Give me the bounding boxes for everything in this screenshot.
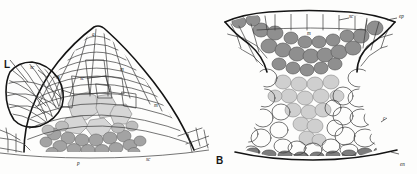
panel-a-drawing: L sc a m sc m m p sc	[0, 0, 209, 174]
panel-b-drawing: sc ep m c en B	[209, 0, 417, 174]
panel-a-label-sc-1: sc	[30, 64, 35, 70]
panel-b-letter: B	[216, 155, 223, 166]
panel-a-label-m-2: m	[120, 66, 124, 72]
panel-a-label-sc-3: sc	[146, 156, 151, 162]
panel-b-label-c: c	[383, 115, 386, 121]
panel-a-label-m-1: m	[56, 74, 60, 80]
panel-a-shoot-apex: L sc a m sc m m p sc	[0, 0, 209, 174]
panel-a-leaf-primordium	[6, 62, 64, 127]
panel-b-label-en: en	[400, 161, 405, 167]
panel-b-label-sc: sc	[349, 13, 354, 19]
panel-b-cross-section: sc ep m c en B	[209, 0, 417, 174]
panel-b-label-m: m	[307, 30, 311, 36]
panel-b-label-ep: ep	[399, 13, 404, 19]
panel-a-label-L: L	[4, 59, 10, 70]
figure-root: L sc a m sc m m p sc	[0, 0, 417, 174]
panel-a-label-sc-2: sc	[80, 75, 85, 81]
panel-a-leader-lines	[10, 60, 48, 82]
panel-a-shaded-cells	[40, 92, 146, 157]
panel-a-label-m-3: m	[154, 102, 158, 108]
panel-a-label-p: p	[76, 160, 80, 166]
panel-a-label-a: a	[92, 31, 95, 37]
